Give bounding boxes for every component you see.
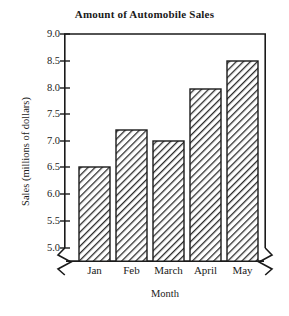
x-tick-label-may: May	[227, 264, 258, 276]
x-axis-label: Month	[64, 288, 266, 299]
x-tick-label-march: March	[151, 264, 186, 276]
bar-jan[interactable]	[79, 167, 110, 261]
bar-may[interactable]	[227, 61, 258, 261]
chart-figure: Amount of Automobile Sales Sales (millio…	[0, 0, 289, 316]
bar-april[interactable]	[190, 89, 221, 261]
bar-series	[79, 61, 258, 261]
x-tick-label-jan: Jan	[79, 264, 110, 276]
x-tick-label-feb: Feb	[116, 264, 147, 276]
bar-feb[interactable]	[116, 130, 147, 261]
x-tick-label-april: April	[189, 264, 222, 276]
bar-march[interactable]	[153, 141, 184, 261]
